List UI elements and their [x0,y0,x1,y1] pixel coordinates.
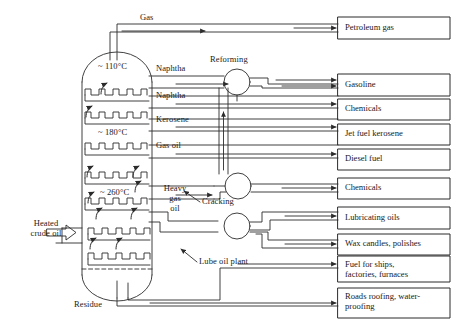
temp-180-label: ~ 180°C [98,127,127,137]
product-label-diesel-fuel: Diesel fuel [345,153,382,163]
gas-label: Gas [140,12,154,22]
product-label-petroleum-gas: Petroleum gas [345,22,394,32]
lube-oil-plant-label: Lube oil plant [199,256,248,266]
naphtha-1-label: Naphtha [156,63,186,73]
product-label-chemicals-1: Chemicals [345,103,381,113]
temp-110-label: ~ 110°C [98,61,127,71]
gas-oil-label: Gas oil [156,140,181,150]
feed-label: Heated crude oil [20,218,72,238]
residue-line [117,264,338,306]
product-label-jet-fuel: Jet fuel kerosene [345,128,403,138]
diagram-canvas [0,0,468,336]
product-label-chemicals-2: Chemicals [345,182,381,192]
heavy-gas-oil-label: Heavy gas oil [154,183,196,213]
cracking-label: Cracking [202,196,234,206]
vapour-flow-arrows [86,83,141,249]
refinery-flow-diagram: Heated crude oil Gas ~ 110°C ~ 180°C ~ 2… [0,0,468,336]
product-label-roads-roofing: Roads roofing, water-proofing [345,291,420,312]
kerosene-label: Kerosene [156,114,189,124]
naphtha-2-label: Naphtha [156,90,186,100]
product-label-wax-candles: Wax candles, polishes [345,238,421,248]
residue-label: Residue [74,299,102,309]
lube-oil-plant-line [149,212,338,248]
reforming-label: Reforming [210,54,248,64]
temp-260-label: ~ 260°C [100,187,129,197]
product-label-lubricating-oils: Lubricating oils [345,212,400,222]
product-label-fuel-for-ships: Fuel for ships,factories, furnaces [345,259,408,280]
product-label-gasoline: Gasoline [345,79,376,89]
